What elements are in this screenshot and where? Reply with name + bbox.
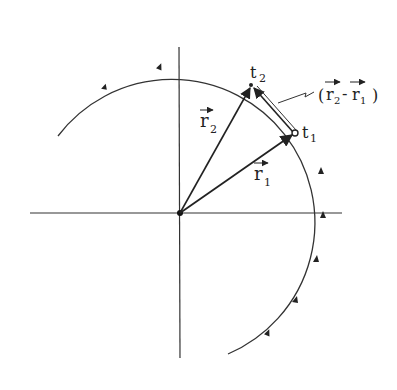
label-leader-line bbox=[278, 92, 314, 103]
svg-text:2: 2 bbox=[259, 72, 266, 85]
arrow-head-icon bbox=[100, 84, 108, 92]
svg-text:t: t bbox=[250, 63, 257, 82]
arrow-head-icon bbox=[313, 255, 319, 262]
arrow-head-icon bbox=[155, 63, 162, 71]
svg-text:1: 1 bbox=[264, 176, 271, 189]
label-r1: r 1 bbox=[254, 163, 271, 189]
svg-text:1: 1 bbox=[310, 132, 317, 145]
y-axis bbox=[179, 47, 180, 358]
svg-text:-: - bbox=[342, 84, 347, 103]
vector-r2 bbox=[180, 88, 250, 213]
point-t1 bbox=[292, 130, 298, 136]
vector-r2-minus-r1-parallel bbox=[257, 86, 296, 130]
path-direction-arrows bbox=[100, 63, 326, 337]
label-r2: r 2 bbox=[200, 110, 217, 136]
label-t1: t 1 bbox=[302, 123, 317, 145]
svg-text:1: 1 bbox=[360, 95, 366, 106]
vector-r1 bbox=[180, 135, 292, 213]
point-t2 bbox=[249, 83, 253, 87]
arrow-head-icon bbox=[318, 167, 324, 174]
svg-text:r: r bbox=[254, 163, 263, 184]
arrow-head-icon bbox=[320, 211, 326, 218]
svg-text:2: 2 bbox=[334, 95, 340, 106]
svg-text:): ) bbox=[372, 86, 378, 105]
svg-text:t: t bbox=[302, 123, 309, 142]
label-r2-minus-r1: ( r 2 - r 1 ) bbox=[318, 82, 378, 106]
circular-path bbox=[58, 79, 315, 354]
svg-text:(: ( bbox=[318, 86, 324, 105]
diagram-canvas: t 2 t 1 r 2 r 1 ( r 2 - r 1 ) bbox=[0, 0, 397, 390]
arrow-head-icon bbox=[263, 329, 270, 337]
svg-text:r: r bbox=[200, 110, 209, 131]
label-t2: t 2 bbox=[250, 63, 266, 85]
svg-text:2: 2 bbox=[210, 123, 217, 136]
svg-text:r: r bbox=[326, 85, 334, 104]
svg-text:r: r bbox=[352, 85, 360, 104]
